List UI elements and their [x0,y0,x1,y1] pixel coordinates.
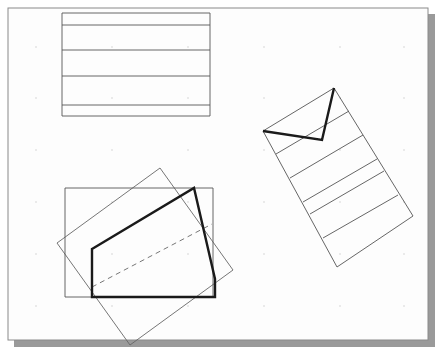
grid-dot [35,305,36,306]
grid-dot [187,149,188,150]
grid-dot [35,149,36,150]
grid-dot [187,253,188,254]
grid-dot [187,46,188,47]
paper-sheet [8,8,428,340]
cad-drawing-window: Top banded rectangle Lower-left wedge as… [0,0,443,357]
grid-dot [187,305,188,306]
grid-dot [111,97,112,98]
grid-dot [339,46,340,47]
shadow-bottom [14,340,435,347]
grid-dot [339,149,340,150]
grid-dot [263,253,264,254]
grid-dot [263,305,264,306]
grid-dot [403,253,404,254]
grid-dot [35,97,36,98]
grid-dot [35,201,36,202]
grid-dot [339,201,340,202]
grid-dot [263,97,264,98]
grid-dot [111,46,112,47]
shadow-right [428,14,435,346]
grid-dot [403,305,404,306]
grid-dot [403,97,404,98]
drawing-canvas[interactable] [0,0,443,357]
grid-dot [35,46,36,47]
grid-dot [403,46,404,47]
grid-dot [111,149,112,150]
grid-dot [263,149,264,150]
grid-dot [263,201,264,202]
grid-dot [187,97,188,98]
grid-dot [339,253,340,254]
grid-dot [111,305,112,306]
grid-dot [187,201,188,202]
grid-dot [35,253,36,254]
grid-dot [339,305,340,306]
grid-dot [263,46,264,47]
grid-dot [111,253,112,254]
grid-dot [403,149,404,150]
